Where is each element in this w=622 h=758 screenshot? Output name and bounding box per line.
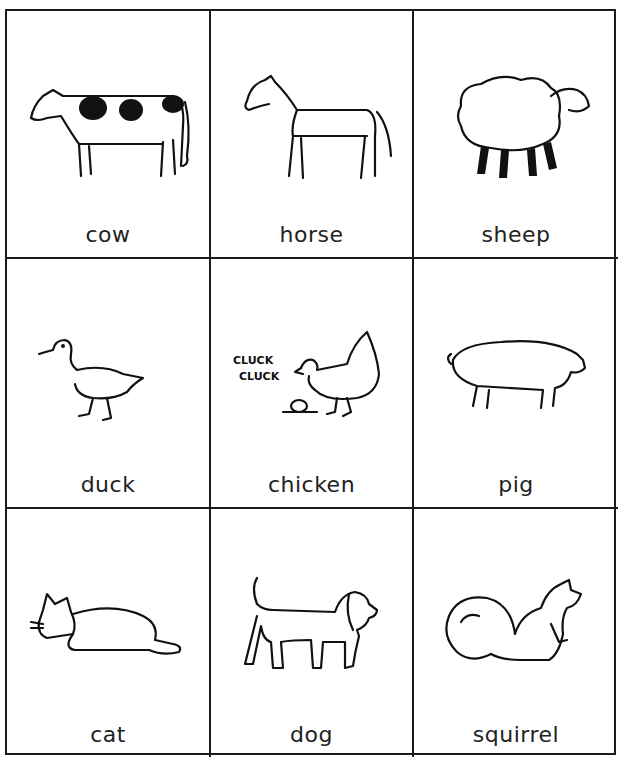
squirrel-icon xyxy=(431,564,601,684)
chicken-icon: CLUCK CLUCK xyxy=(227,314,397,434)
dog-icon xyxy=(227,564,397,684)
svg-text:CLUCK: CLUCK xyxy=(233,354,274,367)
card-label: dog xyxy=(211,722,412,747)
card-cat: cat xyxy=(7,509,211,757)
card-label: cow xyxy=(7,222,209,247)
pig-icon xyxy=(431,314,601,434)
card-pig: pig xyxy=(414,259,618,509)
card-label: chicken xyxy=(211,472,412,497)
card-label: squirrel xyxy=(414,722,618,747)
cow-icon xyxy=(23,66,193,186)
card-label: pig xyxy=(414,472,618,497)
card-cow: cow xyxy=(7,11,211,259)
card-dog: dog xyxy=(211,509,414,757)
sheep-icon xyxy=(431,66,601,186)
card-label: sheep xyxy=(414,222,618,247)
card-horse: horse xyxy=(211,11,414,259)
horse-icon xyxy=(227,66,397,186)
card-chicken: CLUCK CLUCK chicken xyxy=(211,259,414,509)
card-label: horse xyxy=(211,222,412,247)
duck-icon xyxy=(23,314,193,434)
cat-icon xyxy=(23,564,193,684)
card-squirrel: squirrel xyxy=(414,509,618,757)
card-label: cat xyxy=(7,722,209,747)
card-label: duck xyxy=(7,472,209,497)
card-duck: duck xyxy=(7,259,211,509)
svg-text:CLUCK: CLUCK xyxy=(239,370,280,383)
card-sheep: sheep xyxy=(414,11,618,259)
animal-card-grid: cow horse sheep xyxy=(5,9,616,755)
